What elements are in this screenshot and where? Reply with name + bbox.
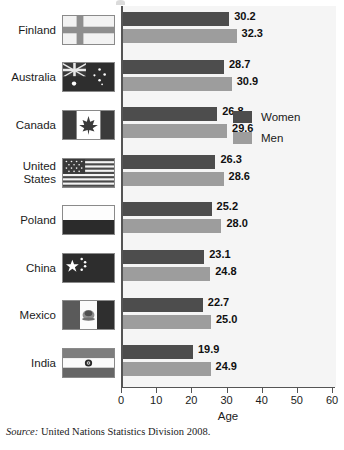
value-label-men: 32.3	[242, 27, 263, 39]
x-axis-tick-label: 30	[220, 394, 232, 406]
chart-row: Finland 30.232.3	[0, 6, 344, 54]
value-label-men: 28.6	[229, 170, 250, 182]
legend-item-women: Women	[233, 108, 300, 125]
x-axis-tick	[191, 387, 192, 393]
x-axis-tick	[121, 387, 122, 393]
bar-women	[123, 155, 215, 169]
flag-canada-icon	[62, 110, 115, 140]
flag-china-icon	[62, 253, 115, 283]
chart-legend: WomenMen	[233, 108, 300, 150]
country-label-mexico: Mexico	[0, 309, 56, 322]
country-label-finland: Finland	[0, 23, 56, 36]
value-label-women: 25.2	[217, 200, 238, 212]
country-label-australia: Australia	[0, 71, 56, 84]
flag-india-icon	[62, 348, 115, 378]
value-label-men: 24.8	[215, 265, 236, 277]
x-axis-tick	[156, 387, 157, 393]
legend-label: Women	[261, 111, 300, 123]
x-axis-tick-label: 10	[150, 394, 162, 406]
chart-row: Mexico 22.725.0	[0, 292, 344, 340]
bar-men	[123, 315, 211, 329]
bar-women	[123, 202, 212, 216]
chart-row: China 23.124.8	[0, 244, 344, 292]
bar-men	[123, 77, 232, 91]
legend-item-men: Men	[233, 129, 300, 146]
value-label-men: 30.9	[237, 75, 258, 87]
source-text: United Nations Statistics Division 2008.	[41, 426, 210, 437]
bar-men	[123, 29, 237, 43]
bar-women	[123, 107, 217, 121]
x-axis-tick	[332, 387, 333, 393]
x-axis-title: Age	[121, 410, 335, 422]
chart-row: Poland 25.228.0	[0, 196, 344, 244]
value-label-women: 28.7	[229, 58, 250, 70]
bar-women	[123, 298, 203, 312]
x-axis-tick	[262, 387, 263, 393]
bar-women	[123, 250, 204, 264]
country-label-india: India	[0, 356, 56, 369]
bar-men	[123, 267, 210, 281]
x-axis-tick-label: 0	[118, 394, 124, 406]
country-label-united-states: United States	[0, 160, 56, 186]
value-label-women: 22.7	[208, 296, 229, 308]
x-axis-tick-label: 20	[185, 394, 197, 406]
bar-men	[123, 219, 221, 233]
x-axis-tick	[227, 387, 228, 393]
flag-mexico-icon	[62, 300, 115, 330]
x-axis-tick-label: 60	[326, 394, 338, 406]
value-label-women: 26.3	[220, 153, 241, 165]
chart-row: India 19.924.9	[0, 339, 344, 387]
country-label-canada: Canada	[0, 118, 56, 131]
country-label-china: China	[0, 261, 56, 274]
bar-men	[123, 362, 211, 376]
bar-women	[123, 12, 229, 26]
x-axis-tick-label: 40	[256, 394, 268, 406]
value-label-men: 25.0	[216, 313, 237, 325]
flag-poland-icon	[62, 205, 115, 235]
flag-finland-icon	[62, 15, 115, 45]
flag-usa-icon	[62, 158, 115, 188]
value-label-women: 23.1	[209, 248, 230, 260]
bar-women	[123, 345, 193, 359]
country-label-poland: Poland	[0, 214, 56, 227]
bar-men	[123, 124, 227, 138]
value-label-men: 28.0	[226, 217, 247, 229]
bar-men	[123, 172, 224, 186]
chart-row: Australia 28.730.9	[0, 54, 344, 102]
legend-label: Men	[261, 132, 283, 144]
legend-swatch-men	[233, 132, 252, 144]
value-label-men: 24.9	[216, 360, 237, 372]
chart-row: United States 26.328.6	[0, 149, 344, 197]
source-prefix: Source:	[6, 426, 38, 437]
x-axis-tick-label: 50	[291, 394, 303, 406]
value-label-women: 30.2	[234, 10, 255, 22]
value-label-women: 19.9	[198, 343, 219, 355]
x-axis-line	[121, 387, 335, 388]
bar-women	[123, 60, 224, 74]
x-axis-tick	[297, 387, 298, 393]
flag-australia-icon	[62, 62, 115, 92]
source-note: Source: United Nations Statistics Divisi…	[6, 426, 210, 437]
legend-swatch-women	[233, 111, 252, 123]
chart-rows: Finland 30.232.3Australia 28.730.9Canada…	[0, 0, 344, 387]
